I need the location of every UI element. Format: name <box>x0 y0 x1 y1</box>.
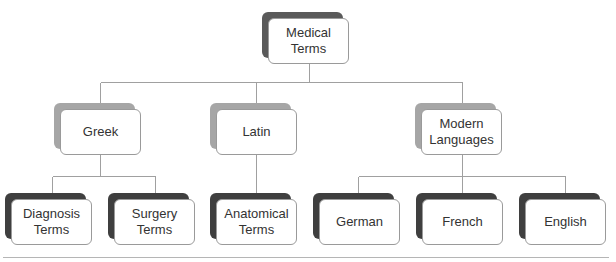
bottom-separator-line <box>3 257 609 258</box>
node-english: English <box>525 199 606 245</box>
node-label-latin: Latin <box>216 109 297 155</box>
node-label-french: French <box>422 199 503 245</box>
node-label-anatomical-terms: Anatomical Terms <box>216 199 297 245</box>
node-modern-languages: Modern Languages <box>421 109 502 155</box>
node-french: French <box>422 199 503 245</box>
node-greek: Greek <box>60 109 141 155</box>
node-label-german: German <box>319 199 400 245</box>
node-label-diagnosis-terms: Diagnosis Terms <box>11 199 92 245</box>
node-label-english: English <box>525 199 606 245</box>
node-surgery-terms: Surgery Terms <box>114 199 195 245</box>
node-label-surgery-terms: Surgery Terms <box>114 199 195 245</box>
node-label-greek: Greek <box>60 109 141 155</box>
medical-terms-hierarchy-diagram: Medical Terms Greek Latin Modern Languag… <box>0 0 616 262</box>
node-anatomical-terms: Anatomical Terms <box>216 199 297 245</box>
node-medical-terms: Medical Terms <box>268 18 349 64</box>
node-diagnosis-terms: Diagnosis Terms <box>11 199 92 245</box>
node-label-medical-terms: Medical Terms <box>268 18 349 64</box>
node-german: German <box>319 199 400 245</box>
node-label-modern-languages: Modern Languages <box>421 109 502 155</box>
node-latin: Latin <box>216 109 297 155</box>
